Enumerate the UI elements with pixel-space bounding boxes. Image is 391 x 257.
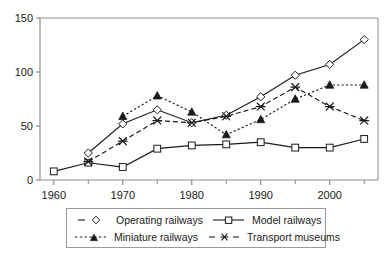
data-point-marker — [325, 103, 334, 110]
data-point-marker — [360, 117, 369, 124]
data-point-marker — [360, 36, 368, 44]
data-point-marker — [257, 139, 264, 146]
data-point-marker — [153, 106, 161, 114]
legend-entry-miniature-railways: Miniature railways — [67, 230, 207, 244]
data-point-marker — [154, 145, 161, 152]
data-point-marker — [153, 92, 161, 99]
y-tick-label: 150 — [15, 12, 33, 24]
data-point-marker — [361, 136, 368, 143]
data-point-marker — [153, 117, 162, 124]
y-tick-label: 50 — [21, 120, 33, 132]
data-point-marker — [188, 142, 195, 149]
x-tick-label: 1980 — [180, 189, 204, 201]
data-point-marker — [291, 71, 299, 79]
data-point-marker — [119, 112, 127, 119]
y-tick-label: 100 — [15, 66, 33, 78]
legend-row: Operating railways Model railways — [67, 212, 325, 229]
legend-entry-model-railways: Model railways — [210, 213, 325, 227]
data-point-marker — [257, 115, 265, 122]
data-point-marker — [223, 141, 230, 148]
legend-label: Model railways — [252, 214, 321, 226]
data-point-marker — [118, 138, 127, 145]
data-point-marker — [360, 81, 368, 88]
legend-label: Operating railways — [116, 214, 203, 226]
data-point-marker — [119, 164, 126, 171]
data-point-marker — [257, 93, 265, 101]
legend-row: Miniature railways Transport museums — [67, 229, 325, 246]
chart-tick-labels: 05010015019601970198019902000 — [15, 12, 342, 201]
legend-label: Transport museums — [247, 231, 340, 243]
data-point-marker — [326, 144, 333, 151]
filled-triangle-icon — [74, 230, 114, 244]
open-square-icon — [212, 213, 252, 227]
x-tick-label: 1990 — [248, 189, 272, 201]
chart-legend: Operating railways Model railways Miniat… — [66, 208, 326, 248]
x-tick-label: 1970 — [111, 189, 135, 201]
legend-entry-transport-museums: Transport museums — [207, 230, 325, 244]
data-point-marker — [291, 84, 300, 91]
data-point-marker — [326, 60, 334, 68]
data-point-marker — [326, 81, 334, 88]
data-point-marker — [50, 168, 57, 175]
data-point-marker — [292, 144, 299, 151]
legend-entry-operating-railways: Operating railways — [67, 213, 210, 227]
asterisk-icon — [207, 230, 247, 244]
legend-label: Miniature railways — [114, 231, 198, 243]
chart-container: 05010015019601970198019902000 Operating … — [0, 0, 391, 257]
data-point-marker — [222, 130, 230, 137]
x-tick-label: 1960 — [42, 189, 66, 201]
chart-series — [50, 136, 367, 175]
x-tick-label: 2000 — [317, 189, 341, 201]
data-point-marker — [291, 95, 299, 102]
chart-series-layer — [50, 36, 368, 175]
data-point-marker — [256, 103, 265, 110]
open-diamond-icon — [76, 213, 116, 227]
data-point-marker — [188, 108, 196, 115]
y-tick-label: 0 — [27, 174, 33, 186]
